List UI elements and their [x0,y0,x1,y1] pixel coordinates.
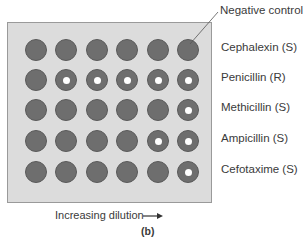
callout-leader-line [190,12,218,44]
annotation-overlay [0,0,304,239]
figure-caption: (b) [141,225,154,237]
right-arrow-icon [143,213,163,219]
x-axis-label: Increasing dilution [55,209,144,221]
